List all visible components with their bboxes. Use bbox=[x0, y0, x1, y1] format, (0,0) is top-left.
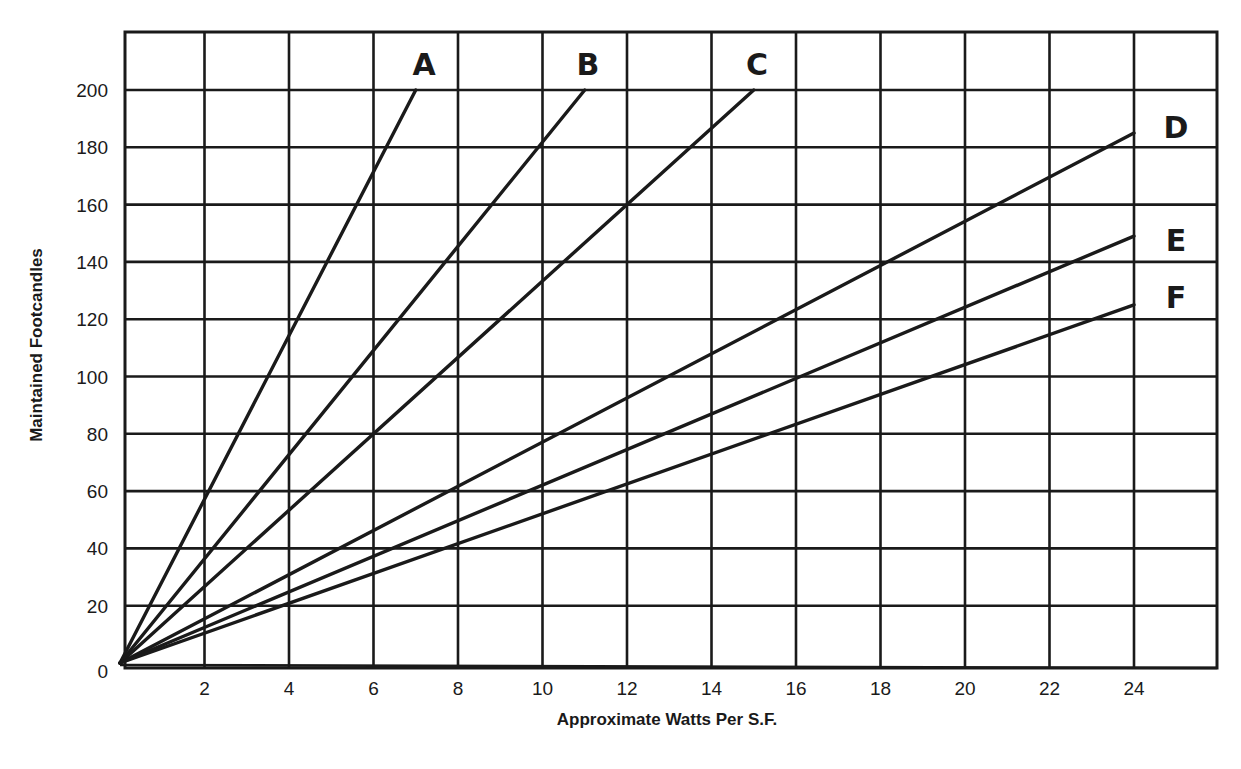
series-label-b: B bbox=[577, 47, 600, 82]
series-label-a: A bbox=[412, 47, 436, 82]
x-tick-label: 2 bbox=[199, 678, 210, 699]
x-tick-label: 14 bbox=[701, 678, 723, 699]
x-tick-label: 18 bbox=[870, 678, 891, 699]
y-tick-label: 20 bbox=[87, 596, 108, 617]
y-tick-label: 40 bbox=[87, 538, 108, 559]
x-axis-title: Approximate Watts Per S.F. bbox=[557, 710, 777, 729]
x-tick-label: 4 bbox=[284, 678, 295, 699]
chart-grid bbox=[120, 32, 1217, 668]
y-tick-label: 160 bbox=[76, 195, 108, 216]
y-tick-label: 60 bbox=[87, 481, 108, 502]
x-tick-label: 8 bbox=[453, 678, 464, 699]
x-tick-label: 6 bbox=[368, 678, 379, 699]
y-tick-label: 180 bbox=[76, 137, 108, 158]
y-tick-label: 140 bbox=[76, 252, 108, 273]
footcandles-chart: 2468101214161820222402040608010012014016… bbox=[0, 0, 1241, 769]
y-tick-label: 200 bbox=[76, 80, 108, 101]
y-tick-label: 100 bbox=[76, 367, 108, 388]
series-label-d: D bbox=[1164, 110, 1189, 145]
y-tick-label: 80 bbox=[87, 424, 108, 445]
y-tick-label: 120 bbox=[76, 309, 108, 330]
series-label-f: F bbox=[1166, 280, 1187, 315]
series-labels: ABCDEF bbox=[412, 47, 1188, 315]
y-axis-title: Maintained Footcandles bbox=[27, 248, 46, 442]
x-tick-label: 20 bbox=[954, 678, 975, 699]
x-tick-label: 24 bbox=[1123, 678, 1145, 699]
x-tick-label: 10 bbox=[532, 678, 553, 699]
series-label-e: E bbox=[1166, 223, 1187, 258]
series-label-c: C bbox=[746, 47, 768, 82]
x-tick-label: 22 bbox=[1039, 678, 1060, 699]
y-tick-label: 0 bbox=[97, 661, 108, 682]
x-tick-label: 12 bbox=[616, 678, 637, 699]
x-tick-label: 16 bbox=[785, 678, 806, 699]
